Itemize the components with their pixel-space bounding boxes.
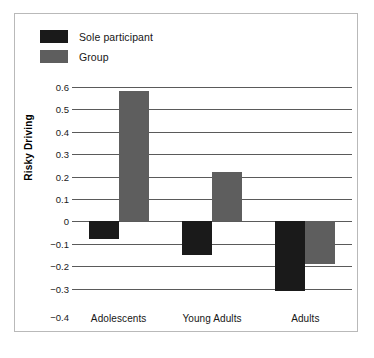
chart-legend: Sole participant Group — [40, 28, 220, 68]
legend-item-group: Group — [40, 48, 220, 65]
plot-area: 0.60.50.40.30.20.10−0.1−0.2−0.3−0.4 — [46, 87, 352, 311]
legend-swatch-sole-participant — [40, 30, 68, 43]
bar — [119, 91, 149, 221]
chart-figure: Sole participant Group Risky Driving 0.6… — [14, 13, 358, 332]
x-tick-label: Adolescents — [91, 313, 147, 324]
bar — [89, 221, 119, 239]
y-tick-label: 0.6 — [56, 82, 69, 93]
x-tick-label: Adults — [291, 313, 319, 324]
y-tick-label: −0.3 — [50, 283, 69, 294]
bar — [305, 221, 335, 264]
y-tick-label: 0.5 — [56, 104, 69, 115]
y-tick-label: −0.2 — [50, 261, 69, 272]
x-tick-label: Young Adults — [182, 313, 241, 324]
y-tick-label: −0.1 — [50, 238, 69, 249]
bar-series-group — [72, 87, 352, 311]
y-tick-label: 0.3 — [56, 149, 69, 160]
y-tick-label: 0.1 — [56, 194, 69, 205]
legend-label-group: Group — [79, 51, 109, 63]
legend-label-sole-participant: Sole participant — [79, 31, 153, 43]
bar — [212, 172, 242, 221]
y-tick-label: −0.4 — [50, 312, 69, 323]
legend-swatch-group — [40, 50, 68, 63]
y-tick-label: 0.4 — [56, 126, 69, 137]
y-axis-tick-labels: 0.60.50.40.30.20.10−0.1−0.2−0.3−0.4 — [46, 87, 72, 311]
legend-item-sole-participant: Sole participant — [40, 28, 220, 45]
bar — [275, 221, 305, 290]
x-axis-category-labels: AdolescentsYoung AdultsAdults — [72, 313, 352, 329]
bar — [182, 221, 212, 255]
y-tick-label: 0.2 — [56, 171, 69, 182]
y-axis-title: Risky Driving — [23, 88, 34, 208]
y-tick-label: 0 — [64, 216, 69, 227]
